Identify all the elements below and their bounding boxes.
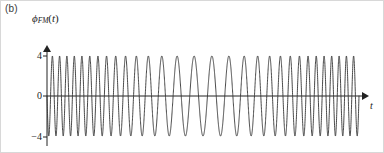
y-axis-arrow-icon — [43, 45, 51, 52]
figure-panel: (b) ϕFM(t) t 4 0 −4 — [0, 0, 384, 153]
plot-area — [1, 1, 384, 153]
x-axis-arrow-icon — [362, 92, 369, 100]
